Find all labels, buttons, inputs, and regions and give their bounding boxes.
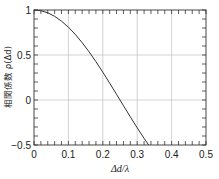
y-axis-title: 相関係数 ρ(Δd) — [3, 46, 13, 108]
correlation-chart: 00.10.20.30.40.5 −0.500.51 Δd/λ 相関係数 ρ(Δ… — [0, 0, 219, 179]
correlation-curve — [34, 10, 149, 145]
x-tick-label: 0 — [31, 149, 37, 160]
y-tick-labels: −0.500.51 — [11, 5, 31, 151]
y-tick-label: −0.5 — [11, 140, 31, 151]
x-tick-label: 0.5 — [199, 149, 213, 160]
x-tick-label: 0.4 — [165, 149, 179, 160]
y-tick-label: 0.5 — [17, 50, 31, 61]
x-axis-title: Δd/λ — [110, 163, 130, 174]
x-tick-labels: 00.10.20.30.40.5 — [31, 149, 213, 160]
plot-frame — [34, 10, 206, 145]
y-tick-label: 0 — [25, 95, 31, 106]
grid-lines — [34, 10, 206, 145]
minor-ticks — [34, 10, 206, 145]
y-tick-label: 1 — [25, 5, 31, 16]
x-tick-label: 0.2 — [96, 149, 110, 160]
x-tick-label: 0.1 — [61, 149, 75, 160]
x-tick-label: 0.3 — [130, 149, 144, 160]
